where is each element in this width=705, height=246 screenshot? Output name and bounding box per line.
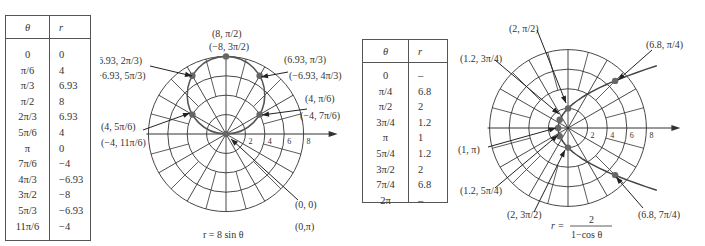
point-annotation: (4, π/6) (305, 93, 335, 105)
table-cell: 5π/4 (363, 146, 408, 162)
polar-grid-ray (187, 134, 226, 201)
point-annotation: (1, π) (458, 144, 480, 156)
table-cell: 1.2 (418, 115, 431, 131)
polar-grid-ray (171, 161, 198, 188)
table-cell: −4 (59, 156, 83, 172)
header-r: r (49, 22, 63, 33)
table-cell: 2 (418, 99, 431, 115)
polar-grid-ray (159, 134, 226, 173)
point-annotation: (6.93, 2π/3) (100, 55, 142, 67)
polar-grid-ray (548, 52, 558, 90)
point-annotation: (−8, 3π/2) (209, 41, 249, 53)
radial-tick-label: 6 (630, 131, 634, 140)
arrowhead-icon (183, 113, 190, 118)
table-cell: −4 (59, 219, 83, 235)
table-cell: 2 (418, 162, 431, 178)
table-cell: −6.93 (59, 172, 83, 188)
table-cell: 8 (59, 94, 83, 110)
polar-grid-ray (171, 79, 198, 106)
table-cell: π/2 (6, 94, 49, 110)
data-point (565, 105, 571, 111)
polar-grid-ray (226, 134, 293, 173)
data-point (556, 133, 562, 139)
table-cell: −8 (59, 187, 83, 203)
polar-grid-ray (151, 144, 188, 154)
point-annotation: (4, 5π/6) (101, 121, 136, 133)
polar-grid-ray (253, 79, 280, 106)
radial-tick-label: 6 (287, 137, 291, 146)
table-cell: π/6 (6, 63, 49, 79)
arrowhead-icon (561, 96, 566, 103)
polar-grid-ray (236, 59, 246, 96)
table-cell: π/2 (363, 99, 408, 115)
data-point (612, 172, 618, 178)
point-annotation: (2, 3π/2) (507, 209, 542, 221)
polar-plot-8sin: 2468(8, π/2)(−8, 3π/2)(6.93, 2π/3)(−6.93… (100, 0, 350, 246)
table-cell: 3π/4 (363, 115, 408, 131)
data-point (565, 144, 571, 150)
table-header: θ r (6, 16, 90, 39)
radial-tick-label: 2 (248, 137, 252, 146)
polar-grid-ray (492, 138, 530, 148)
point-annotation: (−6.93, 4π/3) (289, 70, 342, 82)
radial-tick-label: 8 (307, 137, 311, 146)
point-annotation: (−6.93, 5π/3) (100, 70, 146, 82)
point-annotation: (6.8, 7π/4) (638, 209, 680, 221)
table-cell: −6.93 (59, 203, 83, 219)
point-annotation: (8, π/2) (212, 28, 242, 40)
table-r-8sin: θ r 0π/6π/3π/22π/35π/6π7π/64π/33π/25π/31… (5, 15, 91, 241)
table-cell: 6.8 (418, 177, 431, 193)
table-cell: 4 (59, 125, 83, 141)
polar-grid-ray (568, 89, 636, 128)
arrowhead-icon (560, 150, 565, 157)
polar-grid-ray (206, 59, 216, 96)
plot-caption-numerator: 2 (589, 214, 594, 225)
table-cell: – (418, 193, 431, 209)
polar-grid-ray (548, 166, 558, 204)
table-divider (49, 16, 50, 240)
table-cell: 0 (59, 47, 83, 63)
table-cell: π (6, 141, 49, 157)
radial-tick-label: 2 (591, 131, 595, 140)
polar-grid-ray (606, 108, 644, 118)
table-cell: – (418, 68, 431, 84)
table-cell: 1 (418, 130, 431, 146)
header-r: r (408, 46, 422, 57)
polar-grid-ray (568, 128, 636, 167)
point-annotation: (0, 0) (295, 199, 317, 211)
polar-grid-ray (236, 171, 246, 208)
plot-caption: r = 8 sin θ (203, 229, 244, 240)
axis-arrow-icon (671, 125, 680, 131)
table-cell: π (363, 130, 408, 146)
data-point (189, 111, 195, 117)
polar-grid-ray (492, 108, 530, 118)
arrowhead-icon (549, 127, 556, 132)
point-annotation: (1.2, 3π/4) (460, 53, 502, 65)
table-divider (408, 40, 409, 202)
polar-grid-ray (596, 73, 624, 101)
table-cell: 6.93 (59, 78, 83, 94)
plot-caption-denominator: 1−cos θ (571, 229, 602, 240)
point-annotation: (−4, 7π/6) (300, 110, 340, 122)
polar-grid-ray (206, 171, 216, 208)
polar-plot-conic: 2468(2, π/2)(6.8, π/4)(1.2, 3π/4)(1, π)(… (455, 0, 705, 246)
radial-tick-label: 8 (649, 131, 653, 140)
table-cell: 0 (6, 47, 49, 63)
point-annotation: (0,π) (295, 221, 314, 233)
header-theta: θ (6, 22, 49, 33)
table-cell: 2π (363, 193, 408, 209)
data-point (256, 111, 262, 117)
polar-grid-ray (578, 166, 588, 204)
table-r-conic: θ r 0π/4π/23π/4π5π/43π/27π/42π –6.821.21… (362, 39, 448, 203)
table-cell: 4 (59, 63, 83, 79)
table-cell: 6.8 (418, 84, 431, 100)
data-point (223, 131, 229, 137)
table-cell: 0 (363, 68, 408, 84)
data-point (223, 53, 229, 59)
plot-caption: r = (551, 220, 564, 231)
table-cell: 0 (59, 141, 83, 157)
table-cell: 3π/2 (363, 162, 408, 178)
annotation-leader (488, 128, 556, 147)
radial-tick-label: 4 (268, 137, 272, 146)
table-cell: π/3 (6, 78, 49, 94)
